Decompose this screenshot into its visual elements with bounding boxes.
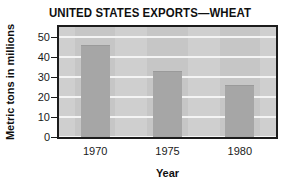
x-tick-label: 1970 xyxy=(83,145,107,157)
bar-1975 xyxy=(153,71,182,137)
plot-area xyxy=(57,25,278,139)
y-tick-mark xyxy=(51,57,57,58)
bar-1970 xyxy=(81,45,110,137)
bar-1980 xyxy=(225,85,254,137)
y-tick-label: 20 xyxy=(28,92,50,103)
y-axis-title: Metric tons in millions xyxy=(4,24,16,140)
x-tick-label: 1980 xyxy=(228,145,252,157)
y-tick-label: 50 xyxy=(28,32,50,43)
gridline xyxy=(59,36,276,38)
y-tick-mark xyxy=(51,97,57,98)
y-tick-label: 30 xyxy=(28,72,50,83)
y-tick-mark xyxy=(51,137,57,138)
y-tick-label: 40 xyxy=(28,52,50,63)
y-axis-title-container: Metric tons in millions xyxy=(2,25,18,139)
x-tick-label: 1975 xyxy=(155,145,179,157)
y-tick-mark xyxy=(51,37,57,38)
y-tick-mark xyxy=(51,117,57,118)
plot-inner xyxy=(59,27,276,137)
bar-chart-figure: UNITED STATES EXPORTS—WHEAT Metric tons … xyxy=(0,0,300,196)
y-tick-label: 10 xyxy=(28,112,50,123)
y-tick-mark xyxy=(51,77,57,78)
x-axis-title: Year xyxy=(57,167,278,179)
chart-title: UNITED STATES EXPORTS—WHEAT xyxy=(18,5,282,20)
y-tick-label: 0 xyxy=(28,132,50,143)
y-axis-tick-labels: 01020304050 xyxy=(20,0,50,196)
